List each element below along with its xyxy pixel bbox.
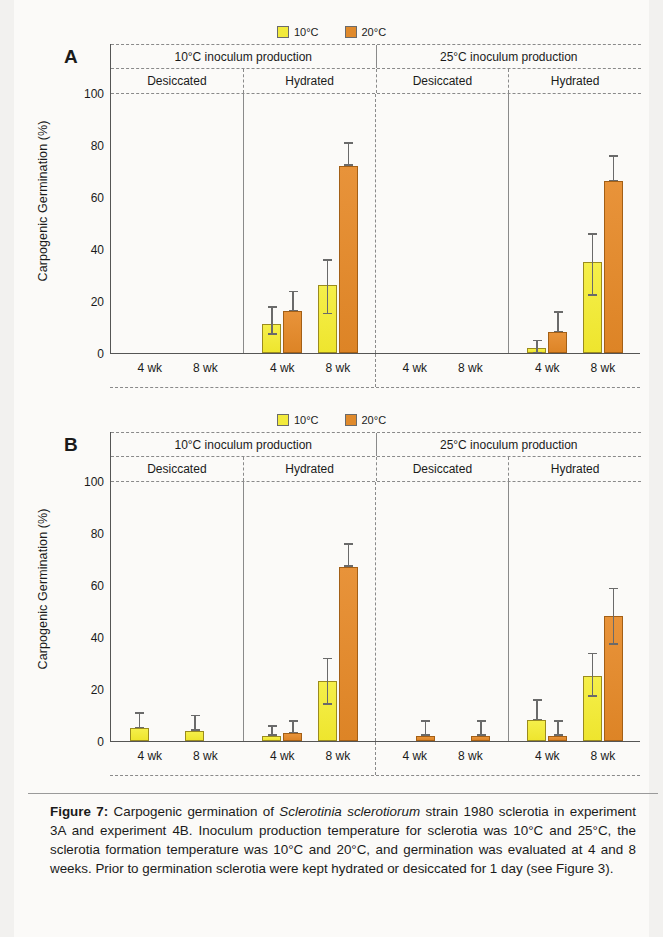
bar-rect xyxy=(283,311,302,353)
plot-area-b: B Carpogenic Germination (%) 10080604020… xyxy=(14,432,649,780)
bar-rect xyxy=(548,332,567,353)
x-tick-10C-Hydrated-4wk-b: 4 wk xyxy=(270,749,295,763)
bar-rect xyxy=(339,567,358,741)
bar-group-25C-Desiccated-8wk-a xyxy=(449,94,491,353)
bar-20C-10C-Desiccated-8wk-a xyxy=(206,94,225,353)
x-tick-25C-Desiccated-8wk-a: 8 wk xyxy=(458,361,483,375)
bar-group-25C-Desiccated-4wk-b xyxy=(394,482,436,741)
chart-panel-a: 10°C 20°C A Carpogenic Germination (%) 1… xyxy=(14,22,649,394)
error-bar xyxy=(292,720,293,733)
bar-20C-25C-Hydrated-8wk-a xyxy=(604,94,623,353)
bar-10C-25C-Desiccated-8wk-b xyxy=(450,482,469,741)
x-tick-10C-Hydrated-4wk-a: 4 wk xyxy=(270,361,295,375)
x-tick-25C-Desiccated-4wk-a: 4 wk xyxy=(402,361,427,375)
error-bar xyxy=(139,712,140,728)
bar-group-25C-Hydrated-4wk-b xyxy=(526,482,568,741)
bar-20C-10C-Hydrated-8wk-b xyxy=(339,482,358,741)
header-row1-b: 10°C inoculum production 25°C inoculum p… xyxy=(111,432,641,457)
caption-species: Sclerotinia sclerotiorum xyxy=(279,804,420,819)
bar-group-10C-Hydrated-8wk-b xyxy=(317,482,359,741)
bar-20C-10C-Desiccated-4wk-a xyxy=(151,94,170,353)
bar-10C-25C-Desiccated-8wk-a xyxy=(450,94,469,353)
bar-10C-25C-Hydrated-8wk-a xyxy=(583,94,602,353)
figure-caption: Figure 7: Carpogenic germination of Scle… xyxy=(28,793,658,878)
bar-10C-10C-Desiccated-4wk-a xyxy=(130,94,149,353)
error-bar xyxy=(613,155,614,181)
bars-container-a xyxy=(110,94,640,354)
legend-swatch-20c-b xyxy=(345,414,357,426)
bar-20C-25C-Desiccated-4wk-a xyxy=(416,94,435,353)
bar-10C-10C-Hydrated-8wk-a xyxy=(318,94,337,353)
legend-panel-a: 10°C 20°C xyxy=(14,22,649,42)
x-tick-25C-Hydrated-8wk-a: 8 wk xyxy=(591,361,616,375)
x-tick-25C-Desiccated-4wk-b: 4 wk xyxy=(402,749,427,763)
x-tick-10C-Desiccated-8wk-b: 8 wk xyxy=(193,749,218,763)
plot-divider-3-b xyxy=(508,482,509,741)
bar-rect xyxy=(416,736,435,741)
header-hydrated-2-b: Hydrated xyxy=(508,457,641,481)
bar-rect xyxy=(471,736,490,741)
x-tick-25C-Hydrated-8wk-b: 8 wk xyxy=(591,749,616,763)
bar-group-10C-Desiccated-4wk-a xyxy=(129,94,171,353)
bar-group-25C-Hydrated-8wk-a xyxy=(582,94,624,353)
y-axis-label-a: Carpogenic Germination (%) xyxy=(36,76,50,326)
figure-page: 10°C 20°C A Carpogenic Germination (%) 1… xyxy=(0,0,663,937)
error-bar xyxy=(536,340,537,353)
xaxis-divider-b xyxy=(375,742,376,775)
header-hydrated-1-a: Hydrated xyxy=(243,69,376,93)
legend-swatch-10c-b xyxy=(277,414,289,426)
y-tick-80-a: 80 xyxy=(91,139,104,153)
x-tick-10C-Hydrated-8wk-b: 8 wk xyxy=(326,749,351,763)
header-hydrated-1-b: Hydrated xyxy=(243,457,376,481)
y-tick-0-b: 0 xyxy=(97,735,104,749)
header-desiccated-2-a: Desiccated xyxy=(376,69,509,93)
bar-group-10C-Desiccated-4wk-b xyxy=(129,482,171,741)
error-bar xyxy=(271,725,272,735)
error-bar xyxy=(592,233,593,295)
bar-group-10C-Hydrated-8wk-a xyxy=(317,94,359,353)
x-tick-25C-Hydrated-4wk-a: 4 wk xyxy=(535,361,560,375)
bar-group-10C-Desiccated-8wk-b xyxy=(184,482,226,741)
legend-label-10c-b: 10°C xyxy=(294,414,319,426)
legend-swatch-20c xyxy=(345,26,357,38)
error-bar xyxy=(536,699,537,720)
bar-group-10C-Hydrated-4wk-b xyxy=(261,482,303,741)
bar-group-25C-Hydrated-8wk-b xyxy=(582,482,624,741)
bar-rect xyxy=(130,728,149,741)
bar-group-25C-Desiccated-8wk-b xyxy=(449,482,491,741)
y-tick-80-b: 80 xyxy=(91,527,104,541)
y-tick-60-a: 60 xyxy=(91,191,104,205)
bar-20C-10C-Desiccated-4wk-b xyxy=(151,482,170,741)
x-axis-a: 4 wk8 wk4 wk8 wk4 wk8 wk4 wk8 wk xyxy=(110,354,640,388)
error-bar xyxy=(592,653,593,697)
y-tick-20-a: 20 xyxy=(91,295,104,309)
legend-label-20c-b: 20°C xyxy=(362,414,387,426)
bar-10C-10C-Hydrated-4wk-b xyxy=(262,482,281,741)
x-tick-10C-Desiccated-4wk-a: 4 wk xyxy=(137,361,162,375)
bar-group-10C-Desiccated-8wk-a xyxy=(184,94,226,353)
y-tick-40-b: 40 xyxy=(91,631,104,645)
error-bar xyxy=(348,543,349,566)
bar-20C-25C-Hydrated-4wk-b xyxy=(548,482,567,741)
header-desiccated-1-a: Desiccated xyxy=(111,69,243,93)
header-row1-a: 10°C inoculum production 25°C inoculum p… xyxy=(111,44,641,69)
y-axis-label-b: Carpogenic Germination (%) xyxy=(36,464,50,714)
header-10c-production-a: 10°C inoculum production xyxy=(111,45,376,68)
header-desiccated-2-b: Desiccated xyxy=(376,457,509,481)
bar-20C-10C-Hydrated-8wk-a xyxy=(339,94,358,353)
bar-10C-25C-Hydrated-4wk-b xyxy=(527,482,546,741)
y-tick-100-b: 100 xyxy=(84,475,104,489)
legend-item-10c: 10°C xyxy=(277,26,319,38)
bar-10C-10C-Desiccated-8wk-b xyxy=(185,482,204,741)
legend-item-20c: 20°C xyxy=(345,26,387,38)
header-hydrated-2-a: Hydrated xyxy=(508,69,641,93)
chart-panel-b: 10°C 20°C B Carpogenic Germination (%) 1… xyxy=(14,410,649,782)
bar-10C-10C-Desiccated-8wk-a xyxy=(185,94,204,353)
plot-area-a: A Carpogenic Germination (%) 10080604020… xyxy=(14,44,649,392)
plot-divider-2-a xyxy=(375,94,376,353)
bar-rect xyxy=(185,731,204,741)
bar-20C-25C-Desiccated-4wk-b xyxy=(416,482,435,741)
bar-group-25C-Hydrated-4wk-a xyxy=(526,94,568,353)
bar-rect xyxy=(604,181,623,353)
bar-10C-25C-Hydrated-4wk-a xyxy=(527,94,546,353)
